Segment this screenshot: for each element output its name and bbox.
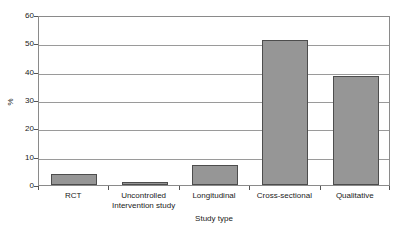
- bar[interactable]: [262, 40, 308, 185]
- x-tick-mark: [179, 186, 180, 190]
- x-tick-label-line: RCT: [65, 191, 81, 200]
- bar[interactable]: [333, 76, 379, 185]
- y-tick-mark: [34, 158, 38, 159]
- y-tick-label: 50: [14, 40, 34, 48]
- bar-slot: [39, 17, 109, 185]
- bar-chart-figure: % 0102030405060 RCTUncontrolledIntervent…: [0, 0, 402, 230]
- y-tick-label: 30: [14, 97, 34, 105]
- y-tick-mark: [34, 129, 38, 130]
- y-tick-label: 20: [14, 125, 34, 133]
- y-tick-mark: [34, 186, 38, 187]
- x-tick-label: Cross-sectional: [249, 191, 319, 201]
- y-tick-mark: [34, 16, 38, 17]
- x-tick-mark: [389, 186, 390, 190]
- bar[interactable]: [122, 182, 168, 185]
- x-tick-label-line: Longitudinal: [192, 191, 235, 200]
- bar[interactable]: [51, 174, 97, 185]
- x-tick-mark: [108, 186, 109, 190]
- x-axis-title: Study type: [38, 214, 390, 224]
- plot-area: [38, 16, 390, 186]
- y-tick-mark: [34, 44, 38, 45]
- x-tick-mark: [38, 186, 39, 190]
- x-tick-mark: [320, 186, 321, 190]
- bar-slot: [109, 17, 179, 185]
- y-tick-label: 60: [14, 12, 34, 20]
- x-tick-label: Longitudinal: [179, 191, 249, 201]
- y-tick-mark: [34, 73, 38, 74]
- x-tick-label-line: Qualitative: [336, 191, 374, 200]
- bar-slot: [180, 17, 250, 185]
- y-tick-label: 10: [14, 154, 34, 162]
- x-tick-mark: [249, 186, 250, 190]
- x-tick-label: Qualitative: [320, 191, 390, 201]
- x-tick-label-line: Uncontrolled: [121, 191, 166, 200]
- y-axis-tick-labels: 0102030405060: [14, 16, 34, 186]
- bar-slot: [321, 17, 391, 185]
- x-tick-label-line: Intervention study: [108, 201, 178, 211]
- y-tick-label: 0: [14, 182, 34, 190]
- bars-layer: [39, 17, 389, 185]
- x-tick-label-line: Cross-sectional: [257, 191, 312, 200]
- bar[interactable]: [192, 165, 238, 185]
- x-tick-label: RCT: [38, 191, 108, 201]
- bar-slot: [250, 17, 320, 185]
- y-tick-mark: [34, 101, 38, 102]
- x-tick-label: UncontrolledIntervention study: [108, 191, 178, 211]
- y-tick-label: 40: [14, 69, 34, 77]
